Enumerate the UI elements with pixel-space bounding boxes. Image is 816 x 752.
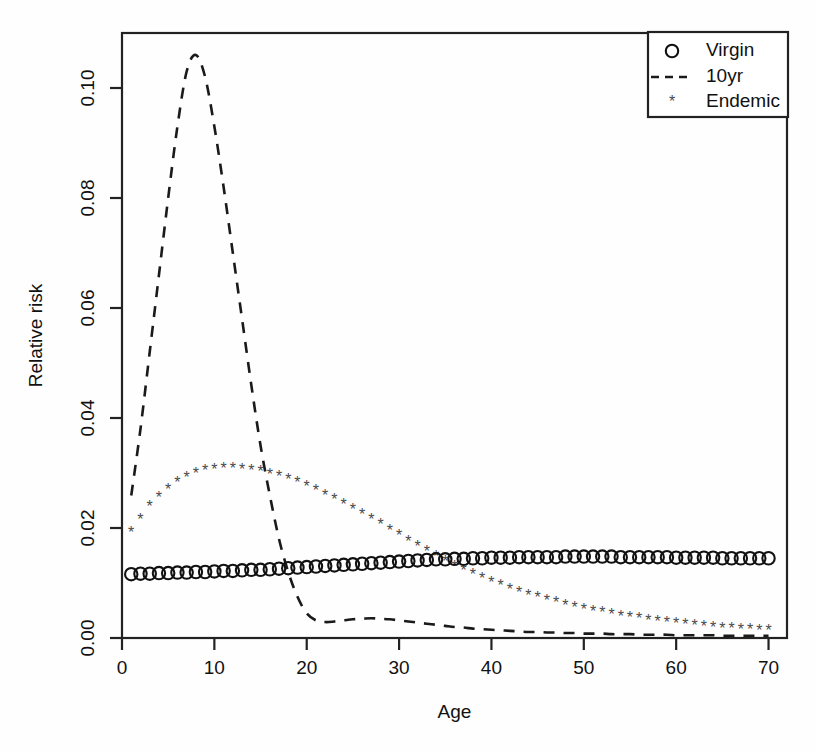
plot-frame [122,33,787,638]
endemic-point: * [387,522,393,539]
legend-label-virgin: Virgin [706,39,754,60]
x-tick-label: 60 [666,657,687,678]
endemic-point: * [498,577,504,594]
endemic-point: * [304,478,310,495]
endemic-point: * [285,471,291,488]
endemic-point: * [692,617,698,634]
endemic-point: * [728,620,734,637]
endemic-point: * [147,498,153,515]
endemic-point: * [655,613,661,630]
y-tick-label: 0.02 [77,510,98,547]
x-tick-label: 50 [573,657,594,678]
series-endemic-points: ****************************************… [128,460,772,639]
endemic-point: * [516,584,522,601]
endemic-point: * [396,527,402,544]
relative-risk-chart: 010203040506070Age0.000.020.040.060.080.… [0,0,816,752]
endemic-point: * [756,622,762,639]
endemic-point: * [738,621,744,638]
y-tick-label: 0.06 [77,290,98,327]
endemic-point: * [562,597,568,614]
legend-label-endemic: Endemic [706,90,780,111]
x-tick-label: 40 [481,657,502,678]
x-axis-title: Age [438,701,472,722]
endemic-point: * [618,608,624,625]
y-tick-label: 0.08 [77,180,98,217]
endemic-point: * [405,533,411,550]
y-tick-label: 0.10 [77,70,98,107]
endemic-point: * [535,589,541,606]
endemic-point: * [747,621,753,638]
endemic-point: * [220,460,226,477]
x-tick-label: 20 [296,657,317,678]
endemic-point: * [359,506,365,523]
series-10yr-line [131,55,768,636]
endemic-point: * [313,482,319,499]
endemic-point: * [156,489,162,506]
endemic-point: * [479,570,485,587]
endemic-point: * [294,474,300,491]
endemic-point: * [230,460,236,477]
endemic-point: * [424,543,430,560]
endemic-point: * [664,614,670,631]
endemic-point: * [581,601,587,618]
legend-asterisk-icon: * [669,93,675,110]
endemic-point: * [128,524,134,541]
endemic-point: * [414,538,420,555]
endemic-point: * [202,462,208,479]
endemic-point: * [184,469,190,486]
x-tick-label: 10 [204,657,225,678]
endemic-point: * [525,587,531,604]
endemic-point: * [165,481,171,498]
endemic-point: * [719,620,725,637]
endemic-point: * [645,612,651,629]
endemic-point: * [322,487,328,504]
endemic-point: * [553,594,559,611]
endemic-point: * [137,511,143,528]
endemic-point: * [470,566,476,583]
chart-page: 010203040506070Age0.000.020.040.060.080.… [0,0,816,752]
x-tick-label: 0 [117,657,128,678]
endemic-point: * [276,468,282,485]
endemic-point: * [341,496,347,513]
endemic-point: * [544,592,550,609]
endemic-point: * [193,465,199,482]
endemic-point: * [590,603,596,620]
endemic-point: * [239,461,245,478]
endemic-point: * [377,516,383,533]
legend-label-10yr: 10yr [706,65,744,86]
endemic-point: * [257,463,263,480]
endemic-point: * [331,491,337,508]
endemic-point: * [765,622,771,639]
endemic-point: * [488,574,494,591]
endemic-point: * [710,619,716,636]
y-axis-title: Relative risk [25,283,46,387]
endemic-point: * [368,511,374,528]
x-tick-label: 70 [758,657,779,678]
endemic-point: * [174,474,180,491]
endemic-point: * [433,548,439,565]
endemic-point: * [571,599,577,616]
endemic-point: * [636,610,642,627]
endemic-point: * [507,581,513,598]
virgin-point [762,552,774,564]
series-virgin-points [125,550,775,580]
endemic-point: * [599,604,605,621]
endemic-point: * [701,618,707,635]
endemic-point: * [627,609,633,626]
endemic-point: * [608,606,614,623]
x-tick-label: 30 [389,657,410,678]
endemic-point: * [350,501,356,518]
y-tick-label: 0.00 [77,620,98,657]
endemic-point: * [248,462,254,479]
endemic-point: * [673,615,679,632]
endemic-point: * [442,553,448,570]
endemic-point: * [682,616,688,633]
endemic-point: * [267,466,273,483]
endemic-point: * [211,461,217,478]
y-tick-label: 0.04 [77,399,98,436]
